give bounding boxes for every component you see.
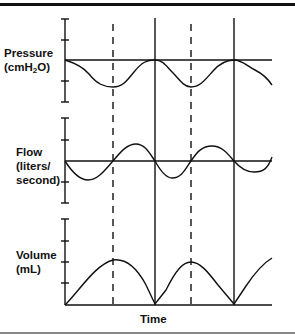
pressure-axis — [61, 19, 272, 102]
pressure-label-unit: (cmH2O) — [4, 60, 53, 78]
flow-label: Flow (liters/ second) — [16, 145, 60, 187]
bottom-border-rule — [0, 332, 295, 334]
pressure-curve — [65, 60, 272, 87]
flow-curve — [65, 144, 272, 180]
pressure-unit-prefix: (cmH — [4, 61, 33, 73]
flow-axis — [61, 118, 272, 203]
volume-curve — [65, 258, 272, 305]
pressure-label: Pressure (cmH2O) — [4, 46, 53, 78]
volume-label-title: Volume — [16, 248, 57, 262]
pressure-unit-suffix: O) — [37, 61, 50, 73]
volume-label-unit: (mL) — [16, 262, 57, 276]
pressure-label-title: Pressure — [4, 46, 53, 60]
flow-label-unit-2: second) — [16, 173, 60, 187]
time-axis-label: Time — [140, 313, 167, 325]
flow-label-unit-1: (liters/ — [16, 159, 60, 173]
flow-label-title: Flow — [16, 145, 60, 159]
volume-label: Volume (mL) — [16, 248, 57, 276]
ventilation-waveforms-diagram: Pressure (cmH2O) Flow (liters/ second) V… — [0, 0, 295, 336]
volume-axis — [61, 219, 272, 305]
